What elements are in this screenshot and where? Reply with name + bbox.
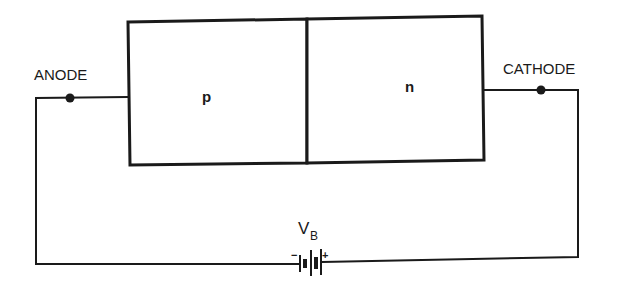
n-region-box	[307, 16, 484, 163]
pn-junction-diagram: ANODE CATHODE p n − + V B	[0, 0, 621, 283]
p-region-label: p	[202, 88, 211, 105]
battery-negative-sign: −	[291, 249, 297, 261]
battery-icon	[300, 249, 321, 276]
battery-voltage-subscript: B	[310, 229, 318, 243]
anode-label: ANODE	[34, 66, 87, 83]
battery-voltage-label: V	[298, 219, 310, 238]
anode-terminal-dot	[66, 94, 75, 103]
cathode-label: CATHODE	[503, 60, 575, 77]
p-region-box	[128, 19, 307, 165]
battery-positive-sign: +	[322, 249, 328, 261]
n-region-label: n	[405, 78, 414, 95]
cathode-terminal-dot	[537, 86, 546, 95]
